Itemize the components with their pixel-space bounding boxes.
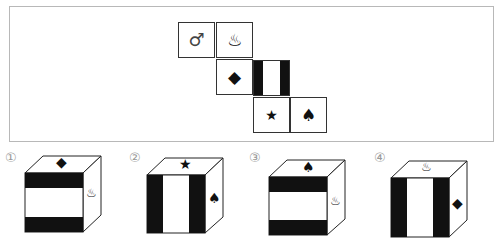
spade-icon: ♠ bbox=[301, 107, 316, 124]
net-face-star: ★ bbox=[253, 97, 290, 133]
star-icon: ★ bbox=[179, 157, 192, 171]
hot-spring-icon: ♨ bbox=[86, 187, 97, 199]
diamond-icon: ◆ bbox=[56, 155, 67, 169]
option-2-label: ② bbox=[129, 150, 141, 165]
diamond-icon: ◆ bbox=[228, 69, 241, 86]
diamond-icon: ◆ bbox=[452, 196, 463, 210]
net-face-diamond: ◆ bbox=[216, 59, 253, 95]
option-4-cube[interactable] bbox=[0, 0, 1, 1]
net-face-hot-spring: ♨ bbox=[216, 22, 253, 58]
net-face-male: ♂ bbox=[178, 22, 215, 58]
stripe-bar bbox=[254, 61, 263, 95]
net-face-spade: ♠ bbox=[290, 97, 327, 133]
net-face-stripes bbox=[253, 60, 290, 96]
stripe-bar bbox=[280, 61, 289, 95]
spade-icon: ♠ bbox=[302, 160, 315, 174]
star-icon: ★ bbox=[265, 108, 278, 122]
male-symbol-icon: ♂ bbox=[188, 31, 204, 49]
spade-icon: ♠ bbox=[208, 191, 221, 205]
hot-spring-icon: ♨ bbox=[330, 195, 341, 207]
hot-spring-icon: ♨ bbox=[227, 32, 242, 49]
option-4-label: ④ bbox=[374, 150, 386, 165]
hot-spring-icon: ♨ bbox=[421, 161, 432, 173]
option-3-label: ③ bbox=[249, 150, 261, 165]
option-1-label: ① bbox=[5, 150, 17, 165]
